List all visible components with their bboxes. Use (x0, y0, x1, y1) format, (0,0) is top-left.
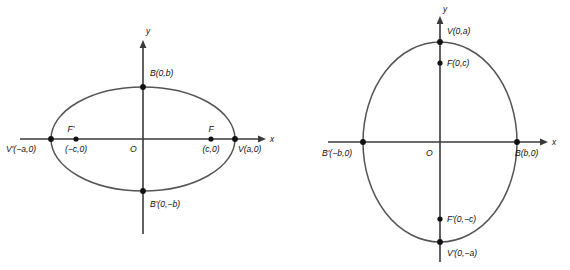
y-axis-arrow-right (437, 16, 444, 24)
x-axis-label-left: x (269, 135, 275, 144)
point-vertex-right (232, 136, 238, 142)
point-vertex-top (437, 39, 443, 45)
ellipse-figure-container: x y V′(−a,0) F′ (−c,0) B(0,b) F (c,0) V(… (0, 0, 570, 270)
label-focus-bottom: F′(0,−c) (447, 214, 476, 224)
ellipse-diagrams-svg: x y V′(−a,0) F′ (−c,0) B(0,b) F (c,0) V(… (0, 0, 570, 270)
point-covertex-bottom (140, 188, 146, 194)
label-focus-right: F (208, 124, 214, 134)
point-covertex-right (514, 139, 520, 145)
label-focus-left-coords: (−c,0) (65, 144, 87, 154)
label-focus-top: F(0,c) (447, 58, 470, 68)
label-covertex-bottom: B′(0,−b) (150, 199, 180, 209)
point-focus-left (73, 136, 78, 141)
label-vertex-top: V(0,a) (447, 26, 471, 36)
y-axis-arrow-left (140, 40, 147, 48)
label-covertex-top: B(0,b) (150, 68, 174, 78)
label-focus-left: F′ (68, 124, 75, 134)
label-vertex-right: V(a,0) (238, 144, 262, 154)
x-axis-arrow-left (258, 136, 266, 143)
label-focus-right-coords: (c,0) (202, 144, 219, 154)
x-axis-arrow-right (540, 139, 548, 146)
origin-label-right: O (426, 148, 433, 158)
point-covertex-left (360, 139, 366, 145)
x-axis-label-right: x (551, 138, 557, 147)
diagram-vertical-ellipse: x y V(0,a) F(0,c) B′(−b,0) B(b,0) F′(0,−… (322, 5, 557, 262)
origin-label-left: O (130, 144, 137, 154)
point-vertex-left (48, 136, 54, 142)
point-focus-bottom (437, 216, 442, 221)
point-vertex-bottom (437, 239, 443, 245)
label-vertex-left: V′(−a,0) (6, 144, 36, 154)
diagram-horizontal-ellipse: x y V′(−a,0) F′ (−c,0) B(0,b) F (c,0) V(… (6, 27, 275, 234)
y-axis-label-left: y (145, 27, 151, 36)
point-focus-right (208, 136, 213, 141)
label-covertex-right: B(b,0) (515, 148, 539, 158)
point-covertex-top (140, 84, 146, 90)
label-vertex-bottom: V′(0,−a) (447, 248, 477, 258)
label-covertex-left: B′(−b,0) (322, 148, 352, 158)
point-focus-top (437, 60, 442, 65)
y-axis-label-right: y (442, 5, 448, 14)
